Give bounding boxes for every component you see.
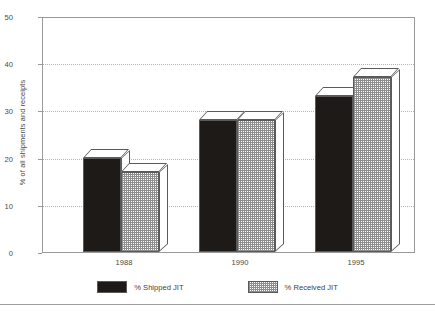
bar-1990-shipped-jit[interactable] — [199, 120, 237, 252]
bar-side — [391, 69, 400, 252]
bar-top — [237, 111, 283, 120]
bar-side — [159, 164, 168, 252]
x-tick-label-1990: 1990 — [195, 258, 285, 267]
footer-divider — [0, 304, 435, 305]
legend-swatch-hatch-icon — [248, 281, 278, 293]
legend-entry-shipped-jit[interactable]: % Shipped JIT — [97, 281, 183, 293]
plot-area — [42, 17, 415, 253]
gridline-40 — [43, 64, 414, 65]
y-tick-label-10: 10 — [0, 201, 13, 210]
legend-swatch-solid-icon — [97, 281, 127, 293]
x-tick-label-1995: 1995 — [311, 258, 401, 267]
legend-entry-received-jit[interactable]: % Received JIT — [248, 281, 338, 293]
bar-top — [121, 163, 167, 172]
bar-1995-received-jit[interactable] — [353, 77, 391, 252]
bar-chart-figure: % of all shipments and receipts 50 40 30… — [0, 0, 435, 311]
y-axis-title: % of all shipments and receipts — [18, 48, 27, 218]
bar-side — [275, 112, 284, 252]
y-tick-mark-0 — [38, 253, 42, 254]
chart-legend: % Shipped JIT % Received JIT — [0, 281, 435, 293]
bar-1988-received-jit[interactable] — [121, 172, 159, 252]
legend-label-shipped-jit: % Shipped JIT — [134, 283, 183, 292]
legend-label-received-jit: % Received JIT — [285, 283, 338, 292]
bar-front-face — [199, 120, 237, 252]
bar-front-face — [121, 172, 159, 252]
bar-front-face — [237, 120, 275, 252]
y-tick-label-40: 40 — [0, 60, 13, 69]
y-tick-label-50: 50 — [0, 13, 13, 22]
bar-front-face — [353, 77, 391, 252]
bar-top — [83, 149, 129, 158]
x-tick-label-1988: 1988 — [79, 258, 169, 267]
y-tick-label-0: 0 — [0, 249, 13, 258]
y-tick-label-20: 20 — [0, 154, 13, 163]
y-tick-label-30: 30 — [0, 107, 13, 116]
bar-front-face — [315, 96, 353, 252]
bar-front-face — [83, 158, 121, 252]
bar-1995-shipped-jit[interactable] — [315, 96, 353, 252]
bar-1990-received-jit[interactable] — [237, 120, 275, 252]
bar-1988-shipped-jit[interactable] — [83, 158, 121, 252]
